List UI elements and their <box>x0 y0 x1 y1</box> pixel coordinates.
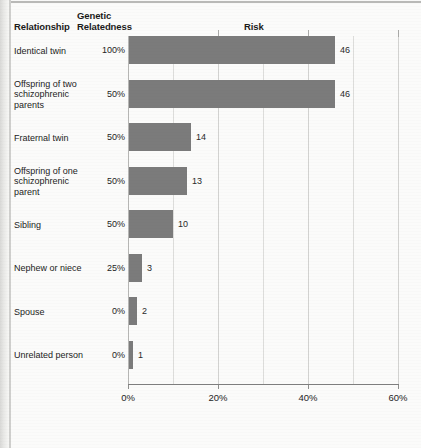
column-header-risk: Risk <box>244 21 264 32</box>
x-axis-label-60pct: 60% <box>378 392 418 403</box>
row-genetic-relatedness: 50% <box>72 132 125 142</box>
row-genetic-relatedness: 0% <box>72 350 125 360</box>
bar <box>128 297 137 325</box>
bar-value-label: 14 <box>196 132 206 142</box>
chart-row: Fraternal twin50%14 <box>0 123 421 167</box>
bar-value-label: 46 <box>340 89 350 99</box>
bar <box>128 80 335 108</box>
x-axis-line <box>128 384 399 385</box>
bar-value-label: 13 <box>192 176 202 186</box>
chart-row: Offspring of twoschizophrenicparents50%4… <box>0 80 421 124</box>
chart-row: Nephew or niece25%3 <box>0 254 421 298</box>
bar <box>128 123 191 151</box>
bar <box>128 36 335 64</box>
bar-value-label: 1 <box>138 350 143 360</box>
x-axis-label-40pct: 40% <box>288 392 328 403</box>
bar-value-label: 46 <box>340 45 350 55</box>
chart-page: Relationship Genetic Relatedness Risk Id… <box>0 0 421 448</box>
row-genetic-relatedness: 50% <box>72 219 125 229</box>
row-genetic-relatedness: 25% <box>72 263 125 273</box>
row-genetic-relatedness: 50% <box>72 89 125 99</box>
column-header-genetic-relatedness-line1: Genetic <box>77 10 111 21</box>
bar-value-label: 3 <box>147 263 152 273</box>
x-axis-label-0pct: 0% <box>108 392 148 403</box>
column-header-relationship: Relationship <box>14 21 70 32</box>
row-label-line: parents <box>14 100 92 111</box>
chart-row: Identical twin100%46 <box>0 36 421 80</box>
page-top-rule <box>11 1 421 3</box>
row-genetic-relatedness: 50% <box>72 176 125 186</box>
bar-value-label: 2 <box>142 306 147 316</box>
column-header-genetic-relatedness: Genetic Relatedness <box>77 10 147 32</box>
column-header-genetic-relatedness-line2: Relatedness <box>77 21 147 32</box>
x-axis-label-20pct: 20% <box>198 392 238 403</box>
chart-row: Unrelated person0%1 <box>0 341 421 385</box>
y-axis-line <box>128 36 129 385</box>
bar <box>128 167 187 195</box>
chart-row: Offspring of oneschizophrenicparent50%13 <box>0 167 421 211</box>
bar-value-label: 10 <box>178 219 188 229</box>
bar <box>128 254 142 282</box>
row-genetic-relatedness: 0% <box>72 306 125 316</box>
chart-row: Sibling50%10 <box>0 210 421 254</box>
bar <box>128 210 173 238</box>
chart-row: Spouse0%2 <box>0 297 421 341</box>
row-genetic-relatedness: 100% <box>72 45 125 55</box>
row-label-line: parent <box>14 187 92 198</box>
